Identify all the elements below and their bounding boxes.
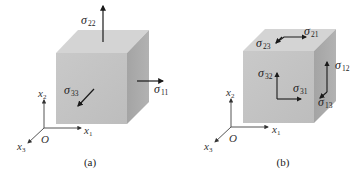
axis-label-x1-b: x1 bbox=[271, 123, 281, 137]
cube-a bbox=[56, 30, 149, 124]
label-sigma-11: σ11 bbox=[154, 82, 168, 97]
axis-label-x2-b: x2 bbox=[225, 86, 235, 100]
label-sigma-12: σ12 bbox=[335, 58, 350, 73]
label-sigma-22: σ22 bbox=[81, 13, 96, 28]
panel-b: σ23 σ21 σ32 σ31 σ12 σ13 x2 x1 x3 O (b) bbox=[203, 24, 350, 169]
label-sigma-21: σ21 bbox=[304, 24, 319, 39]
axis-label-x1-a: x1 bbox=[83, 124, 93, 138]
axis-label-x3-b: x3 bbox=[203, 140, 213, 154]
axis-label-x2-a: x2 bbox=[37, 87, 47, 101]
caption-a: (a) bbox=[84, 156, 97, 169]
caption-b: (b) bbox=[277, 156, 290, 169]
axis-label-x3-a: x3 bbox=[16, 140, 26, 154]
panel-a: σ22 σ11 σ33 x2 x1 x3 O (a) bbox=[16, 6, 168, 169]
origin-label-a: O bbox=[41, 133, 49, 145]
origin-label-b: O bbox=[229, 132, 237, 144]
stress-cubes-figure: σ22 σ11 σ33 x2 x1 x3 O (a) bbox=[0, 0, 363, 178]
